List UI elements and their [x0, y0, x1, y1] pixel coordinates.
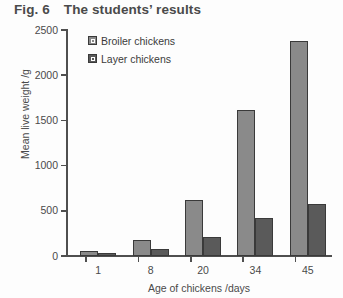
y-axis-tick — [61, 29, 67, 31]
y-axis-tick — [61, 210, 67, 212]
bar-broiler-34 — [237, 110, 255, 256]
y-axis-label: Mean live weight /g — [19, 29, 31, 199]
x-axis-tick-label: 34 — [232, 264, 278, 276]
x-axis-tick-label: 20 — [180, 264, 226, 276]
legend-label-layer: Layer chickens — [101, 53, 171, 65]
x-axis-tick-label: 8 — [128, 264, 174, 276]
x-axis-tick-label: 45 — [285, 264, 331, 276]
x-axis-label: Age of chickens /days — [68, 282, 330, 294]
legend-swatch-broiler — [88, 36, 97, 45]
y-axis-tick-label: 500 — [12, 205, 58, 216]
x-axis-tick — [242, 257, 244, 262]
bar-broiler-1 — [80, 251, 98, 256]
bar-broiler-20 — [185, 200, 203, 256]
bar-layer-45 — [308, 204, 326, 256]
x-axis-tick-label: 1 — [75, 264, 121, 276]
x-axis-tick — [295, 257, 297, 262]
legend-item-layer: Layer chickens — [88, 52, 175, 65]
x-axis-tick — [138, 257, 140, 262]
legend-item-broiler: Broiler chickens — [88, 34, 175, 47]
y-axis-tick — [61, 255, 67, 257]
bar-chart: 05001000150020002500 18203445 Mean live … — [0, 0, 343, 298]
bar-layer-20 — [203, 237, 221, 256]
legend-label-broiler: Broiler chickens — [101, 35, 175, 47]
bar-broiler-45 — [290, 41, 308, 256]
bar-broiler-8 — [133, 240, 151, 256]
x-axis-tick — [85, 257, 87, 262]
figure-container: Fig. 6The students’ results 050010001500… — [0, 0, 343, 298]
y-axis-tick — [61, 120, 67, 122]
bar-layer-8 — [151, 249, 169, 256]
bar-layer-1 — [98, 253, 116, 256]
y-axis-tick-label: 0 — [12, 251, 58, 262]
bar-layer-34 — [255, 218, 273, 256]
x-axis-tick — [190, 257, 192, 262]
legend-swatch-layer — [88, 54, 97, 63]
y-axis-tick — [61, 74, 67, 76]
chart-legend: Broiler chickens Layer chickens — [88, 34, 175, 70]
y-axis-tick — [61, 165, 67, 167]
